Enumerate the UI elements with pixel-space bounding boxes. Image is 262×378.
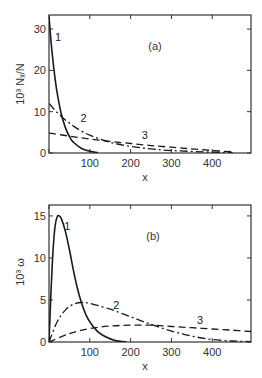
curve-label-1: 1	[55, 31, 61, 43]
series-2-line	[49, 302, 251, 342]
y-tick-label: 20	[34, 64, 46, 76]
panel-label: (b)	[146, 230, 159, 242]
series-3-line	[49, 325, 251, 342]
y-tick-label: 30	[34, 23, 46, 35]
panel-label: (a)	[148, 40, 161, 52]
y-axis-label: 10³ ω	[14, 258, 26, 286]
y-tick-label: 10	[34, 106, 46, 118]
curve-label-1: 1	[64, 220, 70, 232]
series-3-line	[49, 133, 233, 152]
y-tick-label: 5	[40, 294, 46, 306]
figure: 1002003004000102030x10³ Nₓ/N(a)123 10020…	[0, 0, 262, 378]
x-axis-label: x	[142, 171, 148, 183]
x-tick-label: 200	[121, 346, 139, 358]
curve-label-3: 3	[142, 129, 148, 141]
y-tick-label: 10	[34, 252, 46, 264]
series-1-line	[49, 216, 127, 342]
x-tick-label: 200	[121, 157, 139, 169]
panel-a-plot: 1002003004000102030x10³ Nₓ/N(a)123	[14, 15, 251, 183]
y-tick-label: 0	[40, 147, 46, 159]
x-tick-label: 100	[81, 157, 99, 169]
plot-frame	[49, 205, 251, 342]
x-tick-label: 400	[203, 157, 221, 169]
x-tick-label: 300	[162, 157, 180, 169]
y-tick-label: 0	[40, 336, 46, 348]
plot-frame	[49, 15, 251, 153]
y-tick-label: 15	[34, 210, 46, 222]
x-tick-label: 300	[162, 346, 180, 358]
curve-label-2: 2	[81, 112, 87, 124]
x-tick-label: 400	[203, 346, 221, 358]
curve-label-3: 3	[197, 314, 203, 326]
curve-label-2: 2	[113, 299, 119, 311]
panel-b-plot: 100200300400051015x10³ ω(b)123	[14, 205, 251, 372]
y-axis-label: 10³ Nₓ/N	[14, 63, 26, 105]
x-tick-label: 100	[81, 346, 99, 358]
x-axis-label: x	[142, 360, 148, 372]
